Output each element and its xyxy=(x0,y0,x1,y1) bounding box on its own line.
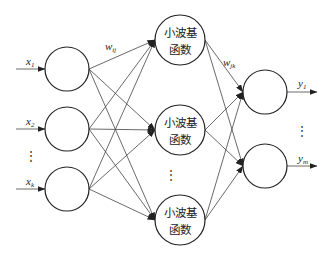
output-label-m: ym xyxy=(297,152,308,166)
output-label-1: y1 xyxy=(297,77,306,91)
input-node-k xyxy=(45,167,89,211)
output-node-1 xyxy=(243,70,287,114)
hidden-layer: 小波基 函数 小波基 函数 小波基 函数 xyxy=(155,15,205,245)
hidden-ellipsis: ⋮ xyxy=(165,168,177,182)
input-label-2: x2 xyxy=(25,115,35,129)
edges-input-hidden xyxy=(89,40,155,220)
hidden-node-1 xyxy=(155,15,205,65)
input-node-2 xyxy=(45,107,89,151)
hidden-node-3-label-line2: 函数 xyxy=(169,223,192,237)
output-layer xyxy=(243,70,287,188)
input-node-1 xyxy=(45,47,89,91)
hidden-node-2-label-line1: 小波基 xyxy=(164,116,198,130)
hidden-node-3-label-line1: 小波基 xyxy=(164,206,198,220)
hidden-node-2-label-line2: 函数 xyxy=(169,133,192,147)
input-ellipsis: ⋮ xyxy=(25,149,37,163)
weight-label-ij: wij xyxy=(105,40,116,54)
input-arrows xyxy=(16,69,45,189)
weight-label-jk: wjk xyxy=(223,56,236,70)
output-node-m xyxy=(243,144,287,188)
hidden-node-1-label-line2: 函数 xyxy=(169,43,192,57)
hidden-node-2 xyxy=(155,105,205,155)
input-layer xyxy=(45,47,89,211)
input-label-1: x1 xyxy=(25,55,34,69)
wavelet-neural-network-diagram: 小波基 函数 小波基 函数 小波基 函数 x1 x2 xk ⋮ wij wjk … xyxy=(0,0,327,256)
input-label-k: xk xyxy=(25,175,35,189)
output-ellipsis: ⋮ xyxy=(296,124,308,138)
hidden-node-1-label-line1: 小波基 xyxy=(164,26,198,40)
hidden-node-3 xyxy=(155,195,205,245)
